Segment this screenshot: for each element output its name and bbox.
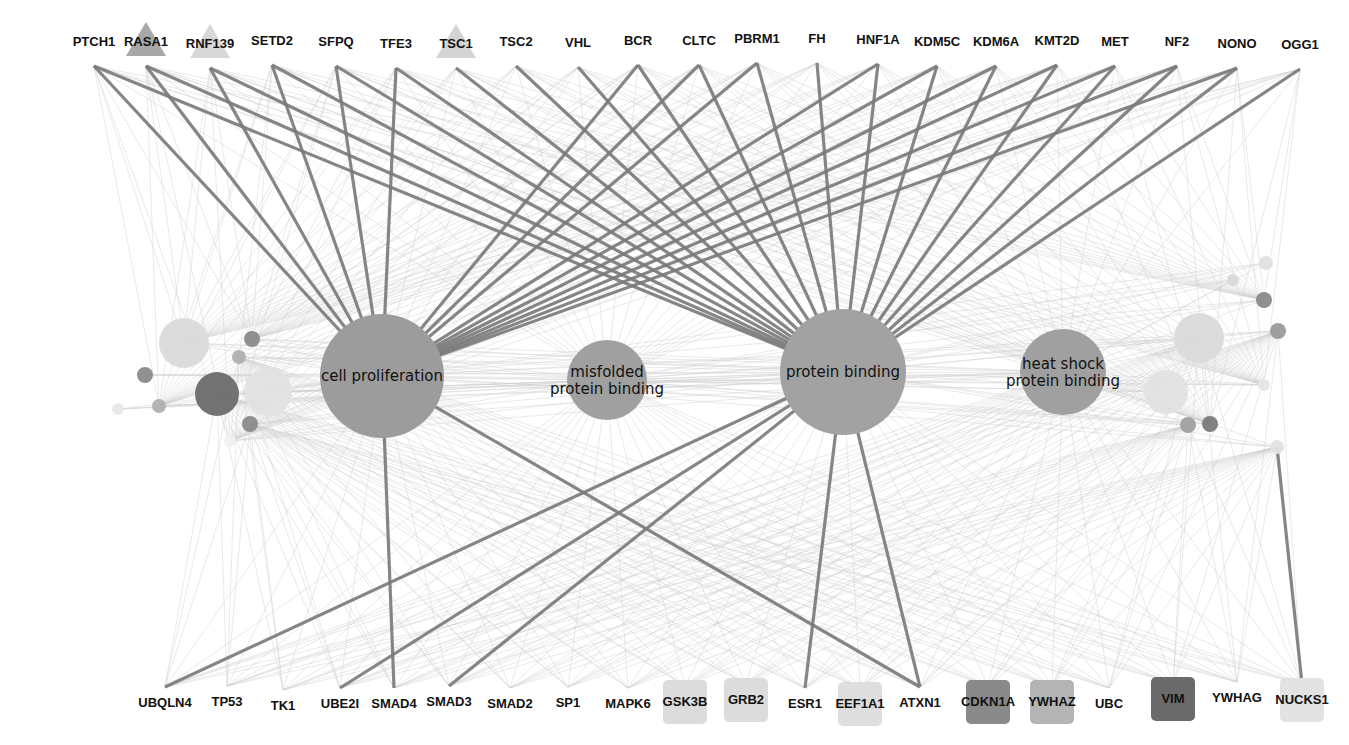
gene-node-cdkn1a[interactable]: CDKN1A	[961, 680, 1016, 724]
gene-node-gsk3b[interactable]: GSK3B	[663, 680, 708, 724]
hub-protein-binding[interactable]: protein binding	[780, 309, 906, 435]
peripheral-node[interactable]	[232, 350, 246, 364]
gene-label: TK1	[271, 698, 296, 713]
gene-node-ptch1[interactable]: PTCH1	[73, 34, 116, 49]
gene-node-eef1a1[interactable]: EEF1A1	[835, 682, 884, 726]
peripheral-node[interactable]	[244, 368, 292, 416]
gene-node-ube2i[interactable]: UBE2I	[321, 696, 359, 711]
gene-label: TSC2	[499, 34, 532, 49]
gene-label: NF2	[1165, 34, 1190, 49]
gene-node-tfe3[interactable]: TFE3	[380, 36, 412, 51]
peripheral-node[interactable]	[1259, 256, 1273, 270]
hub-label: cell proliferation	[321, 367, 443, 385]
gene-node-kdm6a[interactable]: KDM6A	[973, 34, 1020, 49]
gene-label: YWHAG	[1212, 690, 1262, 705]
gene-node-kmt2d[interactable]: KMT2D	[1035, 33, 1080, 48]
peripheral-node[interactable]	[1180, 417, 1196, 433]
peripheral-node[interactable]	[1144, 370, 1188, 414]
gene-label: TSC1	[439, 36, 472, 51]
gene-label: MAPK6	[605, 696, 651, 711]
peripheral-node[interactable]	[1174, 313, 1224, 363]
peripheral-node[interactable]	[1202, 416, 1218, 432]
gene-label: EEF1A1	[835, 696, 884, 711]
gene-label: HNF1A	[856, 32, 900, 47]
peripheral-node[interactable]	[242, 416, 258, 432]
gene-label: SMAD4	[371, 696, 417, 711]
gene-node-kdm5c[interactable]: KDM5C	[914, 34, 961, 49]
gene-label: GSK3B	[663, 694, 708, 709]
gene-node-met[interactable]: MET	[1101, 34, 1129, 49]
gene-label: GRB2	[728, 692, 764, 707]
gene-node-nf2[interactable]: NF2	[1165, 34, 1190, 49]
gene-label: TFE3	[380, 36, 412, 51]
gene-node-mapk6[interactable]: MAPK6	[605, 696, 651, 711]
hub-label: protein binding	[550, 380, 664, 398]
gene-label: BCR	[624, 33, 653, 48]
peripheral-node[interactable]	[152, 399, 166, 413]
gene-node-esr1[interactable]: ESR1	[788, 696, 822, 711]
hub-cell-proliferation[interactable]: cell proliferation	[320, 314, 444, 438]
gene-node-smad3[interactable]: SMAD3	[426, 694, 472, 709]
peripheral-node[interactable]	[224, 435, 236, 447]
gene-node-tp53[interactable]: TP53	[211, 694, 242, 709]
hub-label: heat shock	[1022, 355, 1104, 373]
peripheral-node[interactable]	[159, 318, 209, 368]
gene-label: NUCKS1	[1275, 692, 1328, 707]
gene-node-sp1[interactable]: SP1	[556, 695, 581, 710]
peripheral-node[interactable]	[1227, 274, 1239, 286]
gene-node-grb2[interactable]: GRB2	[724, 678, 768, 722]
gene-node-setd2[interactable]: SETD2	[251, 33, 293, 48]
gene-label: UBQLN4	[138, 695, 192, 710]
gene-label: SMAD2	[487, 696, 533, 711]
gene-node-smad2[interactable]: SMAD2	[487, 696, 533, 711]
gene-node-smad4[interactable]: SMAD4	[371, 696, 417, 711]
gene-node-cltc[interactable]: CLTC	[682, 33, 716, 48]
peripheral-node[interactable]	[1270, 440, 1284, 454]
gene-label: KMT2D	[1035, 33, 1080, 48]
gene-label: MET	[1101, 34, 1129, 49]
peripheral-node[interactable]	[195, 372, 239, 416]
gene-node-vhl[interactable]: VHL	[565, 35, 591, 50]
gene-node-pbrm1[interactable]: PBRM1	[734, 31, 780, 46]
gene-label: RASA1	[124, 34, 168, 49]
gene-label: YWHAZ	[1028, 694, 1076, 709]
hub-label: protein binding	[1006, 372, 1120, 390]
peripheral-node[interactable]	[1270, 323, 1286, 339]
gene-node-hnf1a[interactable]: HNF1A	[856, 32, 900, 47]
gene-label: OGG1	[1281, 37, 1319, 52]
peripheral-node[interactable]	[137, 367, 153, 383]
gene-label: KDM5C	[914, 34, 961, 49]
gene-node-sfpq[interactable]: SFPQ	[318, 34, 353, 49]
gene-node-ywhag[interactable]: YWHAG	[1212, 690, 1262, 705]
peripheral-node[interactable]	[1258, 379, 1270, 391]
gene-node-ubqln4[interactable]: UBQLN4	[138, 695, 192, 710]
peripheral-node[interactable]	[112, 403, 124, 415]
gene-label: CDKN1A	[961, 694, 1016, 709]
gene-label: RNF139	[186, 36, 234, 51]
gene-label: TP53	[211, 694, 242, 709]
gene-node-ywhaz[interactable]: YWHAZ	[1028, 680, 1076, 724]
gene-node-nucks1[interactable]: NUCKS1	[1275, 678, 1328, 722]
gene-label: CLTC	[682, 33, 716, 48]
gene-node-nono[interactable]: NONO	[1218, 36, 1257, 51]
gene-label: VIM	[1161, 691, 1184, 706]
gene-label: SMAD3	[426, 694, 472, 709]
gene-node-fh[interactable]: FH	[808, 31, 825, 46]
gene-label: VHL	[565, 35, 591, 50]
gene-node-atxn1[interactable]: ATXN1	[899, 695, 941, 710]
gene-label: SFPQ	[318, 34, 353, 49]
gene-node-ubc[interactable]: UBC	[1095, 696, 1124, 711]
gene-label: NONO	[1218, 36, 1257, 51]
gene-label: UBE2I	[321, 696, 359, 711]
gene-node-ogg1[interactable]: OGG1	[1281, 37, 1319, 52]
gene-node-vim[interactable]: VIM	[1151, 677, 1195, 721]
gene-node-bcr[interactable]: BCR	[624, 33, 653, 48]
gene-label: KDM6A	[973, 34, 1020, 49]
gene-label: PTCH1	[73, 34, 116, 49]
gene-node-tsc2[interactable]: TSC2	[499, 34, 532, 49]
peripheral-node[interactable]	[244, 331, 260, 347]
gene-node-tk1[interactable]: TK1	[271, 698, 296, 713]
gene-label: UBC	[1095, 696, 1124, 711]
peripheral-node[interactable]	[1256, 292, 1272, 308]
gene-label: SETD2	[251, 33, 293, 48]
